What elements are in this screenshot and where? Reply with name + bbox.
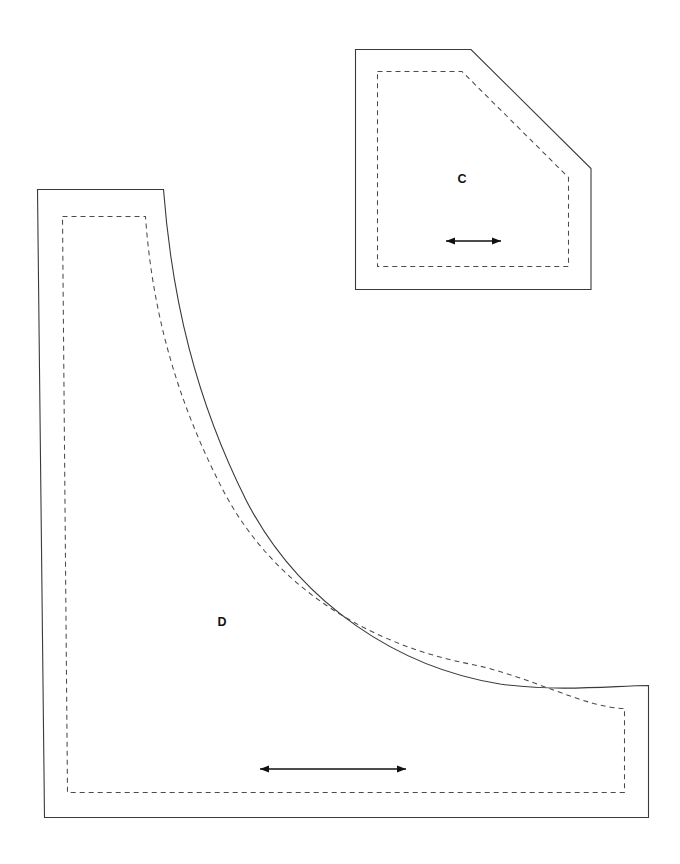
piece-label-d: D — [217, 615, 226, 629]
pattern-drawing-canvas: C D — [0, 0, 680, 864]
piece-label-c: C — [457, 172, 466, 186]
sheet-background — [0, 0, 680, 864]
pattern-sheet: C D — [0, 0, 680, 864]
